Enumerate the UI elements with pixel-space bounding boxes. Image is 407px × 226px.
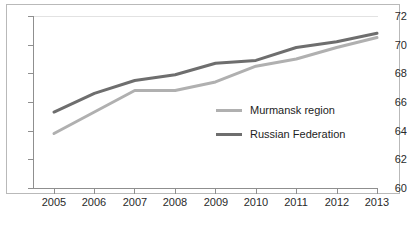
- legend-swatch-murmansk-region: [216, 109, 242, 112]
- legend: Murmansk region Russian Federation: [216, 98, 366, 146]
- legend-item-murmansk-region: Murmansk region: [216, 98, 366, 122]
- legend-item-russian-federation: Russian Federation: [216, 122, 366, 146]
- legend-label-murmansk-region: Murmansk region: [250, 104, 335, 116]
- legend-label-russian-federation: Russian Federation: [250, 128, 345, 140]
- legend-swatch-russian-federation: [216, 133, 242, 136]
- line-chart: 72 70 68 66 64 62 60 2005 2006 2007 2008…: [0, 0, 407, 226]
